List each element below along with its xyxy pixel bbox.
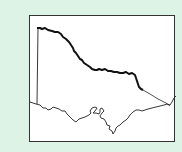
map-frame [29,15,175,142]
northern-border-murray [37,28,143,90]
victoria-outline-map [30,16,176,143]
western-border [37,28,38,104]
eastern-border [143,90,170,106]
southern-coastline [30,96,176,134]
